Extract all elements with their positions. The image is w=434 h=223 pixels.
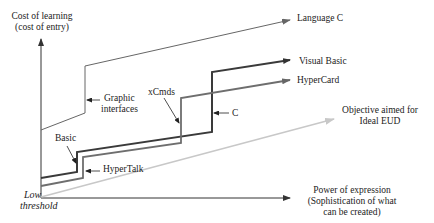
c-label: C [232,108,238,118]
objective-sublabel: Ideal EUD [360,116,401,126]
visual-basic-label: Visual Basic [299,56,347,66]
graphic-interfaces-sublabel: interfaces [101,104,138,114]
x-axis-sublabel-2: can be created) [323,207,380,218]
graphic-interfaces-label: Graphic [104,93,135,103]
language-c-curve [41,20,290,130]
objective-label: Objective aimed for [342,105,419,115]
basic-pointer [67,146,76,163]
learning-cost-diagram: Cost of learning (cost of entry) Power o… [0,0,434,223]
x-axis-label: Power of expression [313,185,391,195]
y-axis-sublabel: (cost of entry) [15,22,69,33]
hypercard-label: HyperCard [297,75,339,85]
visual-basic-curve [41,60,290,178]
basic-label: Basic [55,133,76,143]
x-axis-sublabel: (Sophistication of what [308,196,397,207]
y-axis-label: Cost of learning [11,11,72,21]
ideal-eud-line [41,119,334,197]
origin-sublabel: threshold [20,200,58,211]
xcmds-label: xCmds [148,87,175,97]
language-c-label: Language C [297,13,343,23]
hypertalk-label: HyperTalk [103,164,144,174]
origin-label: Low [23,189,42,200]
xcmds-pointer [164,98,179,123]
